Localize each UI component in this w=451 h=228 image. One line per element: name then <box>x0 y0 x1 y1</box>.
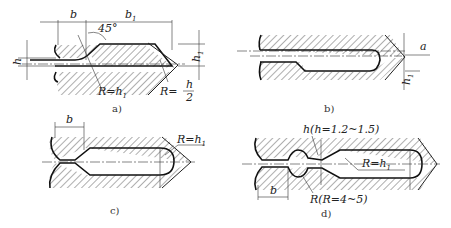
radius-label-c: R=h1 <box>176 133 206 148</box>
h-note-label-d: h(h=1.2~1.5) <box>303 123 379 136</box>
radius-num-a: h <box>186 78 193 91</box>
caption-a: a) <box>112 103 122 114</box>
upper-hatch-b <box>258 35 405 57</box>
caption-c: c) <box>110 205 120 216</box>
dim-b-label-a: b <box>70 8 77 21</box>
diagram-canvas: b b1 45° h h1 R=h1 R= h 2 a) <box>0 0 451 228</box>
caption-b: b) <box>324 103 334 114</box>
caption-d: d) <box>321 208 331 219</box>
radius-small-label-d: R(R=4~5) <box>309 193 368 206</box>
radius-half-h-label-a: R= <box>159 85 178 98</box>
angle-label-a: 45° <box>97 22 118 35</box>
figure-c: b R=h1 c) <box>42 113 206 216</box>
radius-h1-label-a: R=h1 <box>97 85 127 100</box>
lower-hatch-d <box>255 164 437 190</box>
dim-h1-label-b: h1 <box>400 73 415 85</box>
dim-b-label-d: b <box>270 184 277 197</box>
radius-main-label-d: R=h1 <box>361 157 391 172</box>
dim-h-label-a: h <box>11 58 24 65</box>
dim-b-label-c: b <box>66 113 73 126</box>
figure-a: b b1 45° h h1 R=h1 R= h 2 a) <box>11 8 205 114</box>
radius-den-a: 2 <box>185 91 193 104</box>
upper-hatch-a <box>56 45 176 68</box>
dim-a-label-b: a <box>420 40 427 53</box>
figure-b: a h1 b) <box>237 33 430 114</box>
dim-b1-label-a: b1 <box>125 8 137 23</box>
figure-d: h(h=1.2~1.5) R=h1 R(R=4~5) b d) <box>242 123 440 219</box>
dim-h1-label-a: h1 <box>190 50 205 62</box>
